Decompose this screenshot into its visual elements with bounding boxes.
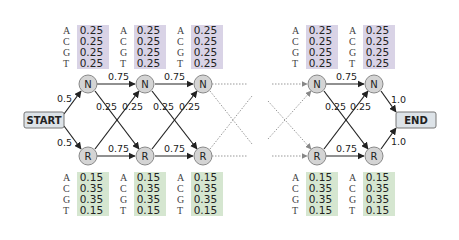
end-node: END [396,112,436,128]
state-node-N: N [365,75,383,93]
emission-table-N: A0.25 C0.25 G0.25 T0.25 [63,25,109,69]
stay-label: 0.75 [336,143,357,154]
stay-label: 0.75 [164,71,185,82]
stay-label: 0.75 [164,143,185,154]
start-node: START [24,112,64,128]
stay-label: 0.75 [336,71,357,82]
state-node-R: R [365,147,383,165]
switch-label: 0.25 [325,101,346,112]
state-node-R: R [308,147,326,165]
emission-table-R: A0.15 C0.35 G0.35 T0.15 [349,172,395,216]
state-node-N: N [136,75,154,93]
emission-table-N: A0.25 C0.25 G0.25 T0.25 [349,25,395,69]
svg-text:R: R [314,151,321,162]
svg-text:R: R [371,151,378,162]
state-node-N: N [194,75,212,93]
start-to-N-label: 0.5 [57,93,72,104]
switch-label: 0.25 [122,101,143,112]
emission-table-R: A0.15 C0.35 G0.35 T0.15 [177,172,223,216]
state-node-R: R [194,147,212,165]
emission-table-R: A0.15 C0.35 G0.35 T0.15 [120,172,166,216]
switch-label: 0.25 [153,101,174,112]
R-to-end-label: 1.0 [391,136,406,147]
switch-label: 0.25 [96,101,117,112]
emission-table-N: A0.25 C0.25 G0.25 T0.25 [177,25,223,69]
state-node-N: N [79,75,97,93]
stay-label: 0.75 [108,71,129,82]
switch-label: 0.25 [350,101,371,112]
svg-text:N: N [199,79,206,90]
svg-text:N: N [370,79,377,90]
svg-text:START: START [26,115,61,126]
emission-table-N: A0.25 C0.25 G0.25 T0.25 [292,25,338,69]
svg-text:N: N [84,79,91,90]
svg-text:END: END [404,115,428,126]
svg-text:R: R [85,151,92,162]
switch-label: 0.25 [179,101,200,112]
emission-table-R: A0.15 C0.35 G0.35 T0.15 [292,172,338,216]
state-node-R: R [136,147,154,165]
stay-label: 0.75 [108,143,129,154]
state-node-N: N [308,75,326,93]
svg-text:N: N [313,79,320,90]
start-to-R-label: 0.5 [57,137,72,148]
transition-edges [95,84,368,156]
N-to-end-label: 1.0 [391,94,406,105]
svg-text:R: R [200,151,207,162]
state-node-R: R [79,147,97,165]
emission-table-R: A0.15 C0.35 G0.35 T0.15 [63,172,109,216]
svg-text:N: N [141,79,148,90]
dotted-continuation [210,84,311,156]
svg-text:R: R [142,151,149,162]
emission-table-N: A0.25 C0.25 G0.25 T0.25 [120,25,166,69]
